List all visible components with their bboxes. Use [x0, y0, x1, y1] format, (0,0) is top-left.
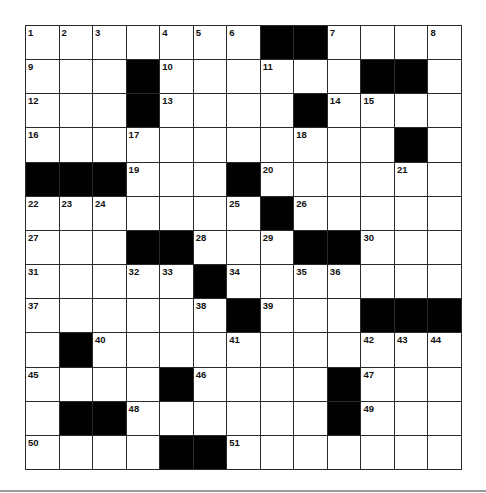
grid-cell[interactable]: 12	[26, 94, 59, 127]
grid-cell[interactable]	[361, 265, 394, 298]
grid-cell[interactable]	[395, 436, 428, 469]
grid-cell[interactable]	[261, 402, 294, 435]
grid-cell[interactable]	[395, 368, 428, 401]
grid-cell[interactable]: 48	[127, 402, 160, 435]
grid-cell[interactable]: 19	[127, 163, 160, 196]
grid-cell[interactable]	[294, 163, 327, 196]
grid-cell[interactable]	[93, 265, 126, 298]
grid-cell[interactable]: 5	[194, 26, 227, 59]
grid-cell[interactable]	[428, 128, 461, 161]
grid-cell[interactable]	[93, 231, 126, 264]
grid-cell[interactable]	[395, 26, 428, 59]
grid-cell[interactable]	[361, 128, 394, 161]
grid-cell[interactable]	[60, 436, 93, 469]
grid-cell[interactable]	[160, 197, 193, 230]
grid-cell[interactable]: 9	[26, 60, 59, 93]
grid-cell[interactable]: 7	[328, 26, 361, 59]
grid-cell[interactable]	[294, 299, 327, 332]
grid-cell[interactable]: 38	[194, 299, 227, 332]
grid-cell[interactable]	[194, 333, 227, 366]
grid-cell[interactable]: 50	[26, 436, 59, 469]
grid-cell[interactable]: 1	[26, 26, 59, 59]
grid-cell[interactable]	[428, 60, 461, 93]
grid-cell[interactable]	[428, 94, 461, 127]
grid-cell[interactable]	[160, 163, 193, 196]
grid-cell[interactable]	[60, 265, 93, 298]
grid-cell[interactable]: 39	[261, 299, 294, 332]
grid-cell[interactable]: 46	[194, 368, 227, 401]
grid-cell[interactable]: 40	[93, 333, 126, 366]
grid-cell[interactable]: 16	[26, 128, 59, 161]
grid-cell[interactable]	[227, 402, 260, 435]
grid-cell[interactable]	[261, 368, 294, 401]
grid-cell[interactable]	[428, 265, 461, 298]
grid-cell[interactable]	[261, 436, 294, 469]
grid-cell[interactable]	[395, 231, 428, 264]
grid-cell[interactable]	[294, 333, 327, 366]
grid-cell[interactable]	[328, 128, 361, 161]
grid-cell[interactable]	[93, 368, 126, 401]
grid-cell[interactable]	[194, 128, 227, 161]
grid-cell[interactable]	[261, 265, 294, 298]
grid-cell[interactable]	[328, 163, 361, 196]
grid-cell[interactable]	[127, 26, 160, 59]
grid-cell[interactable]	[160, 299, 193, 332]
grid-cell[interactable]: 28	[194, 231, 227, 264]
grid-cell[interactable]	[194, 197, 227, 230]
grid-cell[interactable]	[127, 436, 160, 469]
grid-cell[interactable]	[227, 368, 260, 401]
grid-cell[interactable]: 34	[227, 265, 260, 298]
grid-cell[interactable]	[127, 333, 160, 366]
grid-cell[interactable]	[160, 333, 193, 366]
grid-cell[interactable]: 31	[26, 265, 59, 298]
grid-cell[interactable]: 45	[26, 368, 59, 401]
grid-cell[interactable]	[395, 402, 428, 435]
grid-cell[interactable]: 26	[294, 197, 327, 230]
grid-cell[interactable]	[60, 368, 93, 401]
grid-cell[interactable]	[428, 436, 461, 469]
grid-cell[interactable]	[294, 436, 327, 469]
grid-cell[interactable]	[227, 231, 260, 264]
grid-cell[interactable]	[60, 231, 93, 264]
grid-cell[interactable]: 20	[261, 163, 294, 196]
grid-cell[interactable]	[361, 436, 394, 469]
grid-cell[interactable]: 49	[361, 402, 394, 435]
grid-cell[interactable]	[194, 60, 227, 93]
grid-cell[interactable]: 35	[294, 265, 327, 298]
grid-cell[interactable]	[428, 231, 461, 264]
grid-cell[interactable]	[93, 299, 126, 332]
grid-cell[interactable]	[428, 163, 461, 196]
grid-cell[interactable]: 42	[361, 333, 394, 366]
grid-cell[interactable]	[328, 197, 361, 230]
grid-cell[interactable]: 15	[361, 94, 394, 127]
grid-cell[interactable]	[194, 402, 227, 435]
grid-cell[interactable]	[60, 60, 93, 93]
grid-cell[interactable]	[160, 402, 193, 435]
grid-cell[interactable]: 44	[428, 333, 461, 366]
grid-cell[interactable]	[395, 265, 428, 298]
grid-cell[interactable]	[361, 197, 394, 230]
grid-cell[interactable]	[93, 60, 126, 93]
grid-cell[interactable]: 13	[160, 94, 193, 127]
grid-cell[interactable]: 22	[26, 197, 59, 230]
grid-cell[interactable]	[361, 26, 394, 59]
grid-cell[interactable]	[294, 60, 327, 93]
grid-cell[interactable]	[127, 197, 160, 230]
grid-cell[interactable]	[428, 402, 461, 435]
grid-cell[interactable]	[194, 163, 227, 196]
grid-cell[interactable]	[227, 94, 260, 127]
grid-cell[interactable]	[395, 94, 428, 127]
grid-cell[interactable]	[60, 299, 93, 332]
grid-cell[interactable]: 3	[93, 26, 126, 59]
grid-cell[interactable]: 11	[261, 60, 294, 93]
grid-cell[interactable]	[294, 402, 327, 435]
grid-cell[interactable]	[194, 94, 227, 127]
grid-cell[interactable]	[261, 333, 294, 366]
grid-cell[interactable]	[428, 197, 461, 230]
grid-cell[interactable]	[160, 128, 193, 161]
grid-cell[interactable]	[294, 368, 327, 401]
grid-cell[interactable]: 24	[93, 197, 126, 230]
grid-cell[interactable]: 36	[328, 265, 361, 298]
grid-cell[interactable]	[127, 299, 160, 332]
grid-cell[interactable]	[328, 60, 361, 93]
